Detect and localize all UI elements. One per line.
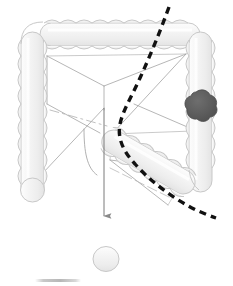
sigmoid-colon <box>93 123 201 271</box>
mesentery-line-right-fan-b <box>134 104 192 129</box>
mesentery-guide-dashed <box>50 110 107 126</box>
scale-bar <box>35 279 81 282</box>
cecum <box>21 178 45 202</box>
mesentery-line-top-left <box>47 56 104 86</box>
colon-diagram <box>0 0 233 286</box>
figure-root: Colon resection schematic Tumour Resecti… <box>0 0 233 286</box>
transverse-colon <box>40 20 200 49</box>
mesentery-line-top-right <box>104 54 186 86</box>
large-bowel-outline <box>18 20 215 272</box>
mesentery-arc <box>84 129 97 175</box>
ascending-colon <box>18 22 47 200</box>
mesentery-line-top-back <box>47 54 186 56</box>
mesentery-line-left-fan-b <box>47 104 100 133</box>
